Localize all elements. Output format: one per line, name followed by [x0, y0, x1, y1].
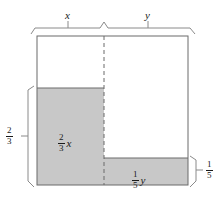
label-right-area-expression: 1 5 y: [132, 164, 145, 190]
fraction-numerator: 1: [132, 170, 139, 179]
fraction-two-thirds: 2 3: [6, 126, 13, 146]
fraction-denominator: 3: [58, 144, 65, 153]
right-shaded-region: [104, 158, 188, 185]
label-right-height-fraction: 1 5: [206, 160, 213, 180]
fraction-numerator: 2: [58, 133, 65, 142]
variable-y: y: [141, 175, 146, 186]
area-model-figure: x y 2 3 1 5 2 3 x 1: [0, 0, 223, 197]
expression-two-thirds-x: 2 3 x: [58, 133, 71, 153]
fraction-denominator: 5: [132, 181, 139, 190]
expression-one-fifth-y: 1 5 y: [132, 170, 145, 190]
left-brace-two-thirds: [28, 86, 34, 187]
variable-x: x: [67, 138, 72, 149]
label-top-width-y: y: [145, 10, 150, 21]
fraction-denominator: 3: [6, 137, 13, 146]
fraction-denominator: 5: [206, 171, 213, 180]
figure-svg: [0, 0, 223, 197]
fraction-one-fifth: 1 5: [206, 160, 213, 180]
label-top-width-x: x: [65, 10, 70, 21]
top-brace-y: [104, 22, 195, 34]
fraction-one-fifth: 1 5: [132, 170, 139, 190]
fraction-numerator: 1: [206, 160, 213, 169]
label-left-height-fraction: 2 3: [6, 126, 13, 146]
right-brace-one-fifth: [190, 156, 196, 187]
fraction-numerator: 2: [6, 126, 13, 135]
fraction-two-thirds: 2 3: [58, 133, 65, 153]
label-left-area-expression: 2 3 x: [58, 127, 71, 153]
